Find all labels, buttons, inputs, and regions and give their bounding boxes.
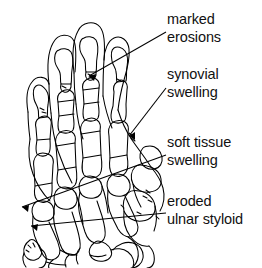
- label-marked-erosions-line1: marked: [167, 11, 221, 29]
- label-eroded-ulnar-styloid-line2: ulnar styloid: [167, 211, 243, 229]
- label-marked-erosions-line2: erosions: [167, 29, 221, 47]
- label-marked-erosions: marked erosions: [167, 11, 221, 46]
- label-synovial-swelling-line2: swelling: [167, 84, 219, 102]
- label-synovial-swelling-line1: synovial: [167, 66, 219, 84]
- proximal-phalanges: [34, 118, 129, 202]
- label-soft-tissue-swelling-line2: swelling: [167, 152, 231, 170]
- leader-synovial-swelling: [129, 88, 166, 136]
- hand-skeleton-outlines: [23, 23, 164, 268]
- label-soft-tissue-swelling: soft tissue swelling: [167, 134, 231, 169]
- leader-soft-tissue-swelling: [22, 155, 166, 207]
- leader-marked-erosions: [89, 32, 166, 76]
- label-synovial-swelling: synovial swelling: [167, 66, 219, 101]
- annotated-hand-radiograph-figure: marked erosions synovial swelling soft t…: [0, 0, 262, 268]
- label-soft-tissue-swelling-line1: soft tissue: [167, 134, 231, 152]
- arrowhead-eroded-ulnar-styloid: [31, 224, 38, 231]
- soft-tissue-contour: [27, 23, 151, 201]
- label-eroded-ulnar-styloid-line1: eroded: [167, 193, 243, 211]
- label-eroded-ulnar-styloid: eroded ulnar styloid: [167, 193, 243, 228]
